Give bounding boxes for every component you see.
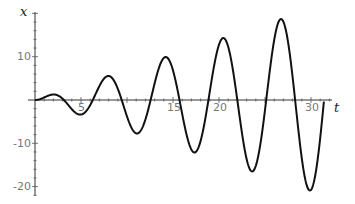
y-tick-label-neg20: -20 (13, 180, 31, 193)
x-tick-label-15: 15 (167, 101, 181, 114)
y-axis-label: x (20, 4, 28, 19)
x-tick-label-30: 30 (305, 101, 319, 114)
line-chart: x t 5 15 20 30 10 -10 -20 (0, 0, 355, 204)
chart: x t 5 15 20 30 10 -10 -20 (0, 0, 355, 204)
x-tick-label-20: 20 (213, 101, 227, 114)
y-tick-label-10: 10 (17, 50, 31, 63)
y-tick-label-neg10: -10 (13, 137, 31, 150)
x-axis-label: t (334, 100, 340, 115)
